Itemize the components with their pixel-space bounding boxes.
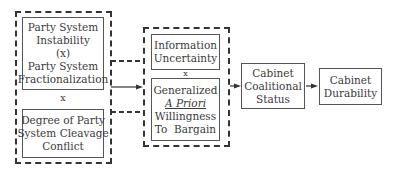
label-line-emphasis: A Priori (165, 97, 206, 110)
label-line: Information (154, 39, 217, 52)
label-line: Generalized (153, 84, 217, 97)
label-line: Status (256, 93, 290, 106)
label-line: Uncertainty (154, 52, 217, 65)
label-line: (x) (56, 47, 70, 60)
label-line: Fractionalization (18, 73, 109, 86)
label-line: System Cleavage (17, 127, 108, 140)
party-cleavage-conflict-box: Degree of Party System Cleavage Conflict (22, 109, 104, 158)
label-line: To Bargain (155, 123, 216, 136)
label-line: Party System (28, 60, 98, 73)
arrowhead-icon (311, 84, 318, 89)
willingness-to-bargain-box: Generalized A Priori Willingness To Barg… (151, 78, 220, 141)
cabinet-durability-box: Cabinet Durability (319, 68, 382, 105)
label-line: Degree of Party (21, 114, 105, 127)
multiply-operator: x (22, 93, 104, 103)
arrowhead-icon (234, 84, 241, 89)
label-line: Party System (28, 21, 98, 34)
multiply-operator: x (151, 69, 220, 78)
party-system-instability-box: Party System Instability (x) Party Syste… (22, 17, 104, 90)
information-uncertainty-box: Information Uncertainty (151, 34, 220, 70)
cabinet-coalitional-status-box: Cabinet Coalitional Status (241, 63, 305, 109)
label-line: Instability (36, 34, 90, 47)
label-line: Willingness (155, 110, 216, 123)
label-line: Conflict (42, 140, 84, 153)
label-line: Coalitional (244, 80, 302, 93)
arrowhead-icon (136, 85, 143, 90)
label-line: Cabinet (252, 67, 294, 80)
label-line: Cabinet (330, 74, 372, 87)
label-line: Durability (324, 87, 377, 100)
